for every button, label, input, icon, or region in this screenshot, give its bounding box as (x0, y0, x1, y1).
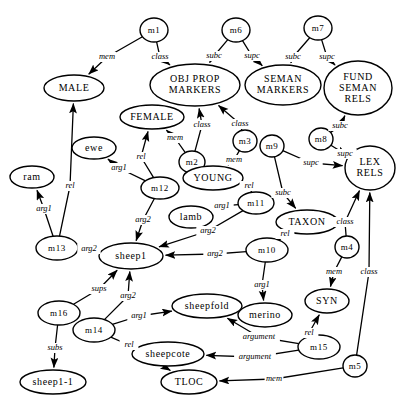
node-label: SEMAN (264, 73, 302, 84)
node-objpropmarkers[interactable]: OBJ PROPMARKERS (150, 64, 240, 106)
edge-label: rel (132, 151, 151, 162)
node-label: TLOC (175, 376, 204, 387)
edge-label: mem (98, 51, 117, 62)
node-label: RELS (357, 167, 384, 178)
edge-label: arg2 (196, 225, 219, 236)
node-m9[interactable]: m9 (260, 135, 284, 157)
svg-text:arg1: arg1 (214, 200, 230, 210)
edge-label: argument (238, 331, 280, 342)
svg-text:subc: subc (206, 50, 222, 60)
node-label: MALE (59, 82, 90, 93)
svg-text:supc: supc (319, 51, 335, 61)
edge-label: arg1 (210, 200, 233, 211)
edge-m13-male (60, 104, 74, 237)
svg-text:sups: sups (91, 283, 107, 293)
node-m6[interactable]: m6 (222, 18, 250, 42)
node-m15[interactable]: m15 (298, 335, 340, 359)
svg-text:class: class (152, 51, 170, 61)
node-label: m7 (312, 23, 325, 33)
node-label: SEMAN (339, 82, 377, 93)
node-m10[interactable]: m10 (246, 238, 288, 262)
svg-text:arg2: arg2 (200, 225, 216, 235)
node-sheep1-1[interactable]: sheep1-1 (20, 370, 86, 394)
edge-label: arg2 (77, 243, 100, 254)
svg-text:arg1: arg1 (111, 162, 127, 172)
svg-text:mem: mem (266, 373, 282, 383)
edge-label: mem (325, 266, 344, 277)
node-sheepfold[interactable]: sheepfold (172, 294, 242, 318)
node-m8[interactable]: m8 (309, 128, 333, 150)
node-m7[interactable]: m7 (304, 16, 332, 40)
node-label: m6 (230, 25, 243, 35)
svg-text:rel: rel (65, 180, 75, 190)
node-label: m4 (341, 242, 354, 252)
node-label: MARKERS (169, 84, 222, 95)
node-m13[interactable]: m13 (36, 236, 78, 260)
node-ram[interactable]: ram (10, 166, 54, 188)
node-fundsemanrels[interactable]: FUNDSEMANRELS (324, 61, 392, 115)
svg-text:argument: argument (239, 351, 272, 361)
node-label: m1 (148, 25, 161, 35)
node-label: m3 (239, 136, 252, 146)
node-label: m15 (310, 342, 328, 352)
node-label: sheep1-1 (33, 376, 74, 387)
node-label: YOUNG (193, 172, 232, 183)
edge-label: class (188, 119, 216, 130)
node-label: FUND (343, 71, 373, 82)
node-label: RELS (345, 93, 372, 104)
edge-label: class (331, 216, 359, 227)
edge-label: arg1 (250, 279, 273, 290)
node-m14[interactable]: m14 (73, 318, 115, 342)
edge-label: class (146, 51, 174, 62)
node-ewe[interactable]: ewe (72, 137, 116, 159)
edge-label: subs (43, 342, 66, 353)
node-tloc[interactable]: TLOC (161, 370, 217, 394)
node-sheep1[interactable]: sheep1 (99, 243, 163, 269)
node-label: LEX (359, 156, 380, 167)
edge-label: arg1 (107, 162, 130, 173)
node-m5[interactable]: m5 (343, 355, 367, 377)
edge-label: rel (120, 339, 139, 350)
node-label: SYN (316, 295, 338, 306)
node-syn[interactable]: SYN (305, 289, 349, 313)
semantic-network-svg: m1m6m7MALEOBJ PROPMARKERSSEMANMARKERSFUN… (0, 0, 406, 406)
svg-text:class: class (337, 216, 355, 226)
node-m16[interactable]: m16 (38, 301, 80, 325)
svg-text:rel: rel (304, 327, 314, 337)
node-label: m11 (247, 198, 264, 208)
node-young[interactable]: YOUNG (183, 166, 243, 190)
svg-text:mem: mem (326, 266, 342, 276)
svg-text:mem: mem (226, 154, 242, 164)
node-m1[interactable]: m1 (140, 18, 168, 42)
node-label: MARKERS (257, 84, 310, 95)
edge-label: supc (240, 50, 263, 61)
node-label: merino (249, 309, 281, 320)
node-label: FEMALE (130, 111, 174, 122)
svg-text:subs: subs (47, 342, 63, 352)
edge-label: subc (328, 120, 351, 131)
svg-text:rel: rel (124, 339, 134, 349)
edge-label: mem (225, 154, 244, 165)
node-m4[interactable]: m4 (335, 236, 359, 258)
svg-text:arg1: arg1 (131, 310, 147, 320)
node-male[interactable]: MALE (44, 75, 104, 101)
node-m11[interactable]: m11 (238, 192, 274, 214)
node-label: ewe (85, 142, 103, 153)
svg-text:arg1: arg1 (36, 203, 52, 213)
node-female[interactable]: FEMALE (120, 105, 184, 129)
node-m12[interactable]: m12 (141, 177, 179, 199)
edge-label: supc (333, 148, 356, 159)
svg-text:class: class (232, 118, 250, 128)
svg-text:arg2: arg2 (120, 290, 136, 300)
nodes-layer: m1m6m7MALEOBJ PROPMARKERSSEMANMARKERSFUN… (10, 16, 395, 394)
node-label: sheepfold (185, 300, 229, 311)
node-m3[interactable]: m3 (233, 130, 257, 152)
node-sheepcote[interactable]: sheepcote (132, 342, 204, 366)
edge-label: class (226, 118, 254, 129)
node-label: OBJ PROP (170, 73, 220, 84)
node-label: sheepcote (146, 348, 191, 359)
edge-label: supc (315, 51, 338, 62)
edge-label: rel (300, 327, 319, 338)
node-merino[interactable]: merino (238, 303, 292, 327)
node-semanmarkers[interactable]: SEMANMARKERS (245, 65, 321, 105)
